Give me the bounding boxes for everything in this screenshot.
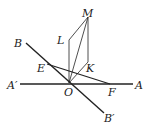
line-e-f bbox=[47, 64, 110, 84]
label-a: A bbox=[134, 79, 143, 92]
label-l: L bbox=[56, 34, 64, 47]
label-b: B bbox=[13, 37, 22, 50]
label-f: F bbox=[107, 86, 116, 99]
label-b-prime: B′ bbox=[103, 112, 115, 125]
line-l-m bbox=[69, 17, 88, 40]
label-a-prime: A′ bbox=[6, 79, 18, 92]
label-o: O bbox=[64, 86, 73, 99]
label-k: K bbox=[85, 62, 95, 75]
geometry-diagram: M L K B E A′ O F A B′ bbox=[0, 0, 151, 129]
label-m: M bbox=[81, 7, 94, 20]
label-e: E bbox=[36, 62, 45, 75]
